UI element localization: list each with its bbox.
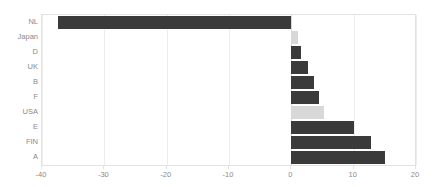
- value-axis-labels: -40-30-20-1001020: [0, 170, 435, 184]
- bar-row: [42, 45, 415, 60]
- category-label-uk: UK: [0, 62, 38, 71]
- bar-nl: [58, 16, 292, 29]
- category-label-e: E: [0, 122, 38, 131]
- xtick-mark-neg40: [41, 166, 42, 169]
- xtick-label-0: 0: [288, 170, 292, 180]
- bar-b: [291, 76, 313, 89]
- bar-fin: [291, 136, 371, 149]
- xtick-mark-neg30: [103, 166, 104, 169]
- category-label-fin: FIN: [0, 137, 38, 146]
- xtick-mark-20: [415, 166, 416, 169]
- category-label-f: F: [0, 92, 38, 101]
- bar-japan: [291, 31, 297, 44]
- xtick-label-20: 20: [411, 170, 419, 180]
- bar-row: [42, 30, 415, 45]
- bar-row: [42, 135, 415, 150]
- xtick-label-neg30: -30: [98, 170, 109, 180]
- plot-area: [41, 14, 416, 166]
- bar-row: [42, 15, 415, 30]
- bar-row: [42, 90, 415, 105]
- xtick-label-neg20: -20: [160, 170, 171, 180]
- bar-uk: [291, 61, 307, 74]
- bar-d: [291, 46, 301, 59]
- xtick-mark-10: [353, 166, 354, 169]
- xtick-mark-neg20: [166, 166, 167, 169]
- category-label-usa: USA: [0, 107, 38, 116]
- bar-usa: [291, 106, 324, 119]
- xtick-label-neg10: -10: [223, 170, 234, 180]
- bar-row: [42, 60, 415, 75]
- category-label-a: A: [0, 152, 38, 161]
- xtick-label-10: 10: [348, 170, 356, 180]
- category-axis-labels: NLJapanDUKBFUSAEFINA: [0, 14, 38, 166]
- bar-row: [42, 105, 415, 120]
- bar-a: [291, 151, 385, 164]
- category-label-nl: NL: [0, 17, 38, 26]
- xtick-mark-0: [290, 166, 291, 169]
- gridline-20: [416, 15, 417, 165]
- horizontal-bar-chart: NLJapanDUKBFUSAEFINA -40-30-20-1001020: [0, 0, 435, 187]
- category-label-d: D: [0, 47, 38, 56]
- category-label-japan: Japan: [0, 32, 38, 41]
- xtick-mark-neg10: [228, 166, 229, 169]
- xtick-label-neg40: -40: [36, 170, 47, 180]
- bar-rows: [42, 15, 415, 165]
- bar-row: [42, 120, 415, 135]
- bar-f: [291, 91, 318, 104]
- bar-row: [42, 75, 415, 90]
- category-label-b: B: [0, 77, 38, 86]
- bar-row: [42, 150, 415, 165]
- bar-e: [291, 121, 353, 134]
